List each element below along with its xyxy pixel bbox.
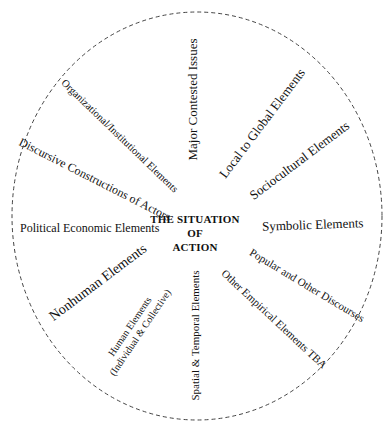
center-label-line3: ACTION: [140, 240, 250, 254]
label-spatial-temporal-elements: Spatial & Temporal Elements: [190, 281, 201, 401]
label-major-contested-issues: Major Contested Issues: [186, 35, 199, 165]
label-political-economic-elements: Political Economic Elements: [20, 222, 138, 234]
situational-map-diagram: THE SITUATION OF ACTION Major Contested …: [0, 0, 391, 428]
label-symbolic-elements: Symbolic Elements: [262, 216, 362, 232]
